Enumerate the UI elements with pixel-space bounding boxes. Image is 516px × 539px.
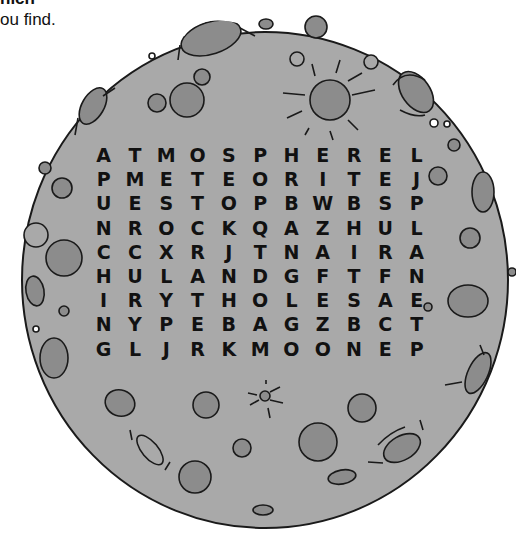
letter-cell[interactable]: T [182,167,213,191]
letter-cell[interactable]: G [276,264,307,288]
letter-cell[interactable]: H [213,288,244,312]
letter-cell[interactable]: Z [307,216,338,240]
letter-cell[interactable]: Y [151,288,182,312]
letter-cell[interactable]: L [119,337,150,361]
letter-cell[interactable]: R [182,337,213,361]
letter-cell[interactable]: S [213,143,244,167]
letter-cell[interactable]: N [276,240,307,264]
letter-cell[interactable]: H [338,216,369,240]
letter-cell[interactable]: R [182,240,213,264]
letter-cell[interactable]: J [213,240,244,264]
letter-cell[interactable]: T [338,264,369,288]
grid-row-4: N R O C K Q A Z H U L [88,216,432,240]
letter-cell[interactable]: N [401,264,432,288]
letter-cell[interactable]: J [151,337,182,361]
letter-cell[interactable]: T [182,288,213,312]
letter-cell[interactable]: E [182,312,213,336]
letter-cell[interactable]: L [151,264,182,288]
letter-cell[interactable]: G [276,312,307,336]
letter-cell[interactable]: M [244,337,275,361]
letter-cell[interactable]: R [338,143,369,167]
letter-cell[interactable]: A [244,312,275,336]
letter-cell[interactable]: T [401,312,432,336]
letter-cell[interactable]: I [307,167,338,191]
letter-cell[interactable]: P [88,167,119,191]
letter-cell[interactable]: A [276,216,307,240]
letter-cell[interactable]: C [119,240,150,264]
letter-cell[interactable]: R [276,167,307,191]
letter-cell[interactable]: O [244,288,275,312]
letter-cell[interactable]: O [307,337,338,361]
letter-cell[interactable]: S [151,191,182,215]
letter-cell[interactable]: O [244,167,275,191]
letter-cell[interactable]: L [401,216,432,240]
letter-cell[interactable]: J [401,167,432,191]
letter-cell[interactable]: B [213,312,244,336]
letter-cell[interactable]: T [244,240,275,264]
letter-cell[interactable]: S [338,288,369,312]
letter-cell[interactable]: B [338,191,369,215]
letter-cell[interactable]: N [88,312,119,336]
letter-cell[interactable]: E [370,143,401,167]
letter-cell[interactable]: D [244,264,275,288]
letter-cell[interactable]: A [401,240,432,264]
letter-cell[interactable]: I [338,240,369,264]
letter-cell[interactable]: F [307,264,338,288]
letter-cell[interactable]: K [213,337,244,361]
letter-cell[interactable]: P [401,191,432,215]
letter-cell[interactable]: A [182,264,213,288]
letter-cell[interactable]: N [213,264,244,288]
letter-cell[interactable]: F [370,264,401,288]
letter-cell[interactable]: T [119,143,150,167]
letter-cell[interactable]: R [370,240,401,264]
letter-cell[interactable]: T [182,191,213,215]
letter-cell[interactable]: E [213,167,244,191]
letter-cell[interactable]: C [370,312,401,336]
letter-cell[interactable]: R [119,288,150,312]
letter-cell[interactable]: N [88,216,119,240]
letter-cell[interactable]: A [307,240,338,264]
letter-cell[interactable]: E [401,288,432,312]
letter-cell[interactable]: E [307,143,338,167]
letter-cell[interactable]: S [370,191,401,215]
letter-cell[interactable]: M [119,167,150,191]
letter-cell[interactable]: U [88,191,119,215]
letter-cell[interactable]: E [151,167,182,191]
letter-cell[interactable]: M [151,143,182,167]
letter-cell[interactable]: I [88,288,119,312]
letter-cell[interactable]: E [119,191,150,215]
letter-cell[interactable]: O [276,337,307,361]
letter-cell[interactable]: A [370,288,401,312]
letter-cell[interactable]: E [307,288,338,312]
letter-cell[interactable]: P [244,191,275,215]
letter-cell[interactable]: X [151,240,182,264]
letter-cell[interactable]: O [182,143,213,167]
letter-cell[interactable]: P [151,312,182,336]
letter-cell[interactable]: U [370,216,401,240]
letter-cell[interactable]: L [276,288,307,312]
letter-cell[interactable]: E [370,337,401,361]
letter-cell[interactable]: N [338,337,369,361]
letter-cell[interactable]: H [88,264,119,288]
letter-cell[interactable]: Z [307,312,338,336]
letter-cell[interactable]: L [401,143,432,167]
letter-cell[interactable]: H [276,143,307,167]
letter-cell[interactable]: W [307,191,338,215]
letter-cell[interactable]: K [213,216,244,240]
letter-cell[interactable]: P [244,143,275,167]
letter-cell[interactable]: Y [119,312,150,336]
letter-cell[interactable]: O [151,216,182,240]
letter-cell[interactable]: E [370,167,401,191]
letter-cell[interactable]: C [182,216,213,240]
letter-cell[interactable]: B [276,191,307,215]
letter-cell[interactable]: O [213,191,244,215]
letter-cell[interactable]: G [88,337,119,361]
letter-cell[interactable]: P [401,337,432,361]
letter-cell[interactable]: C [88,240,119,264]
letter-cell[interactable]: B [338,312,369,336]
letter-cell[interactable]: T [338,167,369,191]
letter-cell[interactable]: U [119,264,150,288]
letter-cell[interactable]: A [88,143,119,167]
letter-cell[interactable]: R [119,216,150,240]
letter-cell[interactable]: Q [244,216,275,240]
